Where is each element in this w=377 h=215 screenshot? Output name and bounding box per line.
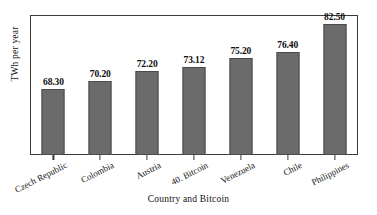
bar-value-label: 73.12 [184, 55, 205, 65]
x-axis-category-label: Austria [134, 160, 163, 181]
bar [182, 67, 205, 155]
x-axis-category-label: Colombia [79, 160, 116, 185]
x-axis-category-label: Czech Republic [14, 160, 69, 195]
bar-value-label: 75.20 [230, 46, 251, 56]
bar-slot: 73.12 [171, 15, 218, 155]
bar-chart: TWh per year 68.3070.2072.2073.1275.2076… [0, 0, 377, 215]
bar [42, 89, 65, 155]
bar-value-label: 76.40 [277, 40, 298, 50]
x-axis-category-label: 40. Bitcoin [169, 160, 209, 187]
bar [89, 81, 112, 155]
bar-slot: 72.20 [124, 15, 171, 155]
bar-value-label: 82.50 [324, 12, 345, 22]
bar-value-label: 68.30 [43, 77, 64, 87]
bar-slot: 68.30 [30, 15, 77, 155]
bar [136, 71, 159, 155]
bar-value-label: 72.20 [137, 59, 158, 69]
bar [323, 24, 346, 155]
bars-container: 68.3070.2072.2073.1275.2076.4082.50 [30, 15, 358, 155]
x-axis-title: Country and Bitcoin [0, 194, 377, 204]
x-axis-category-labels: Czech RepublicColombiaAustria40. Bitcoin… [30, 160, 358, 194]
x-axis-category-label: Chile [281, 160, 303, 178]
y-axis-title: TWh per year [10, 6, 24, 102]
bar [229, 58, 252, 155]
x-axis-category-label: Philippines [309, 160, 350, 188]
bar [276, 52, 299, 155]
bar-slot: 75.20 [217, 15, 264, 155]
bar-slot: 76.40 [264, 15, 311, 155]
bar-slot: 70.20 [77, 15, 124, 155]
bar-slot: 82.50 [311, 15, 358, 155]
bar-value-label: 70.20 [90, 69, 111, 79]
x-axis-category-label: Venezuela [219, 160, 257, 186]
